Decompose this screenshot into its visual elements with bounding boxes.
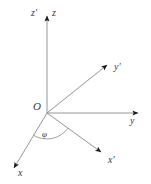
x-prime-axis-label: x′ [108, 155, 115, 165]
axes-drawing [0, 0, 151, 184]
y-axis-label: y [130, 116, 134, 126]
origin-label: O [33, 101, 41, 112]
z-prime-axis-label: z′ [31, 8, 37, 18]
z-axis-label: z [52, 8, 56, 18]
x-axis-line [14, 113, 47, 168]
phi-angle-label: φ [42, 130, 47, 139]
y-prime-axis-line [47, 65, 107, 113]
x-prime-axis-line [47, 113, 101, 152]
phi-angle-arc [34, 128, 69, 139]
coordinate-diagram: z′ z y′ y x′ x O φ [0, 0, 151, 184]
x-axis-label: x [18, 168, 22, 178]
y-prime-axis-label: y′ [114, 62, 121, 72]
